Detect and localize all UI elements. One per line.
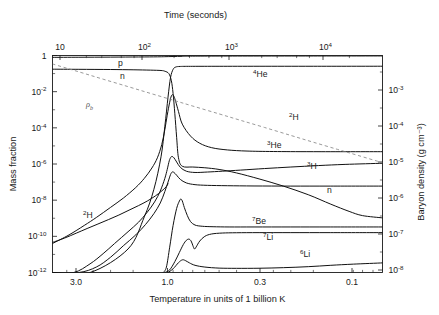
right-tick-label-5: 10-8 <box>389 264 405 275</box>
right-tick-label-2: 10-5 <box>389 156 405 167</box>
curve-label-6Li: 6Li <box>300 248 310 259</box>
annotation-n-late: n <box>327 185 332 195</box>
curve-label-3H: 3H <box>307 160 317 171</box>
curve-label-2H_main: 2H <box>289 111 299 122</box>
plot-canvas: 3.01.00.30.1Temperature in units of 1 bi… <box>0 0 439 315</box>
x-tick-label-2: 0.3 <box>254 277 266 287</box>
top-tick-label-0: 10 <box>55 42 65 52</box>
x-axis-title: Temperature in units of 1 billion K <box>150 294 287 304</box>
curves-group <box>53 56 383 274</box>
curve-label-n: n <box>120 71 125 81</box>
curve-label-4He: 4He <box>253 68 268 79</box>
y-tick-label-2: 10-4 <box>31 122 47 133</box>
y-tick-label-6: 10-12 <box>28 266 47 277</box>
x-tick-label-1: 1.0 <box>162 277 174 287</box>
curve-label-7Be: 7Be <box>252 215 266 226</box>
y-tick-label-1: 10-2 <box>31 85 47 96</box>
curve-2H_rise <box>53 184 169 243</box>
curve-label-2H_rise: 2H <box>83 209 93 220</box>
curve-4He <box>53 66 383 274</box>
curve-label-rho_b: ρb <box>85 100 93 111</box>
right-axis-title: Baryon density (g cm⁻³) <box>416 123 426 220</box>
right-tick-label-0: 10-3 <box>389 84 405 95</box>
curve-n <box>53 69 383 218</box>
curve-7Li <box>165 233 383 273</box>
right-tick-label-4: 10-7 <box>389 228 405 239</box>
y-axis-title: Mass fraction <box>8 137 18 192</box>
curve-6Li <box>168 260 382 273</box>
curve-label-7Li: 7Li <box>263 231 273 242</box>
x-tick-label-3: 0.1 <box>346 277 358 287</box>
y-tick-label-4: 10-8 <box>31 194 47 205</box>
curve-label-p: p <box>118 58 123 68</box>
top-tick-label-3: 104 <box>319 41 333 52</box>
y-tick-label-5: 10-10 <box>28 230 47 241</box>
top-tick-label-1: 102 <box>138 41 152 52</box>
curve-rho_b <box>53 64 383 163</box>
top-axis-title: Time (seconds) <box>164 10 227 20</box>
curve-3He <box>53 156 383 273</box>
y-tick-label-0: 1 <box>42 51 47 61</box>
right-tick-label-3: 10-6 <box>389 192 405 203</box>
curve-label-3He: 3He <box>267 139 282 150</box>
bbn-abundance-figure: 3.01.00.30.1Temperature in units of 1 bi… <box>0 0 439 315</box>
y-tick-label-3: 10-6 <box>31 158 47 169</box>
plot-frame <box>53 56 383 273</box>
top-tick-label-2: 103 <box>225 41 239 52</box>
right-tick-label-1: 10-4 <box>389 120 405 131</box>
x-tick-label-0: 3.0 <box>70 277 82 287</box>
